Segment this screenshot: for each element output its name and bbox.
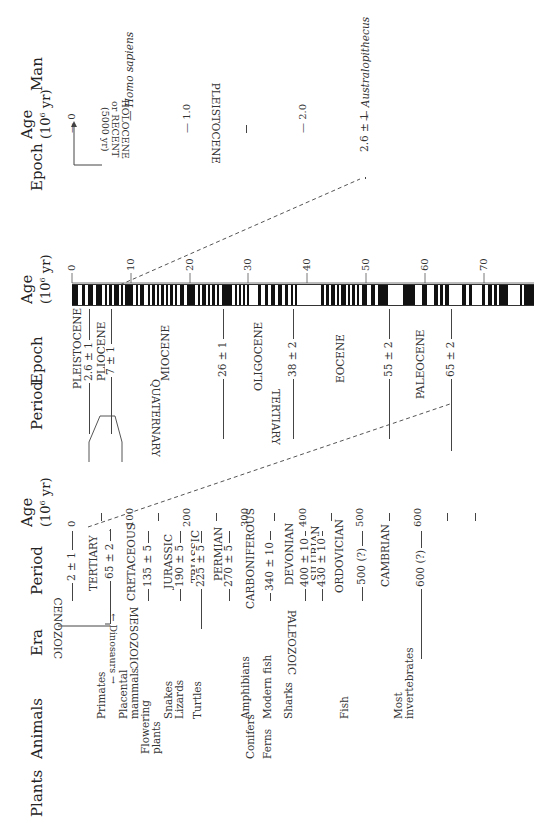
holocene-arrow: [0, 0, 560, 839]
top-age-tick: — 2.0: [297, 104, 308, 133]
top-age-tick: — 0: [66, 113, 77, 133]
man-homo-sapiens: — Homo sapiens: [124, 32, 135, 121]
man-australopithecus: — Australopithecus: [360, 17, 371, 121]
tick-mark: [246, 125, 247, 133]
epoch-pleistocene-top: PLEISTOCENE: [210, 83, 221, 164]
top-age-tick: — 1.0: [181, 104, 192, 133]
tick-mark: [365, 177, 366, 179]
geologic-timescale-diagram: Plants Animals Era Period Age (106 yr) 0…: [0, 0, 560, 839]
